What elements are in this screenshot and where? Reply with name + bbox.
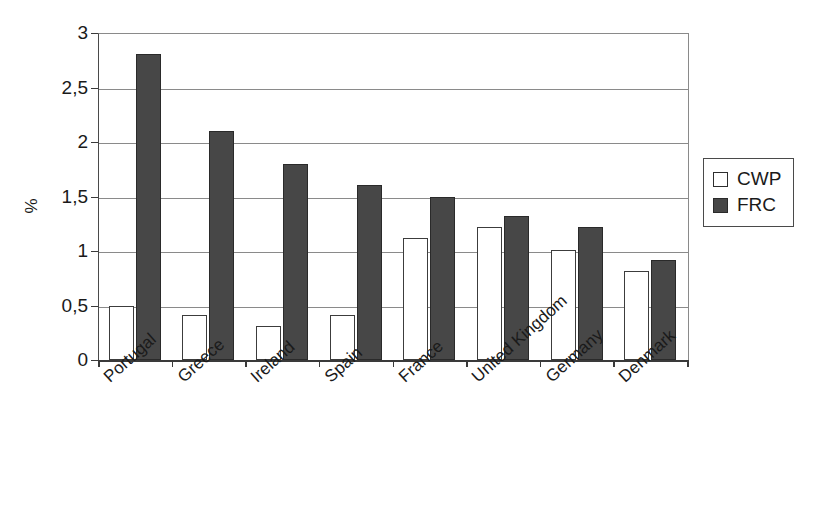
bars-layer xyxy=(98,33,687,360)
bar-group xyxy=(466,33,540,360)
bar-group xyxy=(393,33,467,360)
y-axis-tick-label: 1 xyxy=(44,240,88,262)
bar-chart: % 32,521,510,50 CWP FRC PortugalGreeceIr… xyxy=(0,0,814,518)
bar-cwp-united-kingdom xyxy=(477,227,502,360)
x-axis-tick-mark xyxy=(613,360,615,367)
legend-swatch-filled-square-icon xyxy=(713,198,728,213)
legend-item-cwp: CWP xyxy=(713,166,781,192)
bar-group xyxy=(98,33,172,360)
x-axis-tick-mark xyxy=(98,360,100,367)
y-axis-tick-mark xyxy=(91,33,98,34)
bar-frc-portugal xyxy=(136,54,161,360)
x-axis-tick-mark xyxy=(540,360,542,367)
bar-frc-greece xyxy=(209,131,234,360)
y-axis-tick-label: 0,5 xyxy=(44,295,88,317)
bar-frc-ireland xyxy=(283,164,308,360)
y-axis-tick-mark xyxy=(91,306,98,307)
bar-group xyxy=(613,33,687,360)
x-axis-tick-mark xyxy=(466,360,468,367)
y-axis-tick-mark xyxy=(91,251,98,252)
legend: CWP FRC xyxy=(703,158,794,227)
y-axis-title: % xyxy=(22,198,42,213)
x-axis-tick-mark xyxy=(687,360,689,367)
x-axis-tick-mark xyxy=(319,360,321,367)
x-axis-tick-mark xyxy=(393,360,395,367)
y-axis-tick-label: 1,5 xyxy=(44,186,88,208)
legend-item-frc: FRC xyxy=(713,192,781,218)
y-axis-tick-mark xyxy=(91,142,98,143)
y-axis-tick-label: 2,5 xyxy=(44,77,88,99)
bar-group xyxy=(172,33,246,360)
y-axis-tick-label: 3 xyxy=(44,22,88,44)
bar-group xyxy=(319,33,393,360)
legend-swatch-hollow-square-icon xyxy=(713,172,728,187)
legend-label-frc: FRC xyxy=(737,194,776,216)
bar-group xyxy=(245,33,319,360)
y-axis-tick-mark xyxy=(91,360,98,361)
x-axis-tick-mark xyxy=(245,360,247,367)
legend-label-cwp: CWP xyxy=(737,168,781,190)
y-axis-tick-mark xyxy=(91,88,98,89)
bar-frc-spain xyxy=(357,185,382,360)
y-axis-tick-mark xyxy=(91,197,98,198)
bar-cwp-france xyxy=(403,238,428,360)
y-axis-tick-labels: 32,521,510,50 xyxy=(44,0,88,518)
y-axis-tick-label: 0 xyxy=(44,349,88,371)
x-axis-tick-mark xyxy=(172,360,174,367)
y-axis-tick-label: 2 xyxy=(44,131,88,153)
